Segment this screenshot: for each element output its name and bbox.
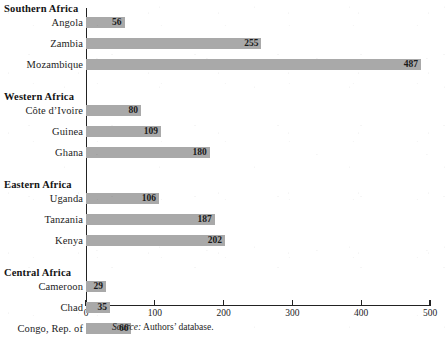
x-axis-tick-label: 300 <box>285 308 299 318</box>
x-axis-tick-label: 100 <box>148 308 162 318</box>
bar-value-label: 29 <box>86 281 106 292</box>
bar-value-label: 56 <box>86 17 125 28</box>
bar-chart: 0100200300400500Southern AfricaAngola56Z… <box>0 0 445 338</box>
x-axis-tick-label: 200 <box>216 308 230 318</box>
category-label: Chad <box>60 302 83 313</box>
category-label: Kenya <box>55 235 83 246</box>
x-axis-tick <box>223 300 224 306</box>
bar-value-label: 180 <box>86 147 210 158</box>
bar-value-label: 109 <box>86 126 161 137</box>
category-label: Guinea <box>52 126 83 137</box>
source-text: Authors’ database. <box>143 322 214 332</box>
x-axis-tick <box>154 300 155 306</box>
category-label: Congo, Rep. of <box>17 323 83 334</box>
category-label: Zambia <box>50 38 83 49</box>
category-label: Ghana <box>55 147 83 158</box>
x-axis-tick-label: 500 <box>423 308 437 318</box>
category-label: Cameroon <box>38 281 83 292</box>
x-axis-tick <box>361 300 362 306</box>
group-header: Central Africa <box>4 267 71 278</box>
bar-value-label: 202 <box>86 235 225 246</box>
source-note: Source: Authors’ database. <box>112 322 214 332</box>
category-label: Tanzania <box>44 214 83 225</box>
group-header: Southern Africa <box>4 3 78 14</box>
bar-value-label: 106 <box>86 193 159 204</box>
x-axis-tick <box>429 300 430 306</box>
category-label: Côte d’Ivoire <box>25 105 83 116</box>
x-axis-tick-label: 400 <box>354 308 368 318</box>
category-label: Uganda <box>50 193 83 204</box>
x-axis-line <box>86 305 430 306</box>
group-header: Eastern Africa <box>4 179 72 190</box>
group-header: Western Africa <box>4 91 74 102</box>
bar-value-label: 80 <box>86 105 141 116</box>
x-axis-tick <box>292 300 293 306</box>
category-label: Angola <box>51 17 83 28</box>
bar-value-label: 255 <box>86 38 261 49</box>
bar-value-label: 187 <box>86 214 215 225</box>
source-label: Source: <box>112 322 141 332</box>
category-label: Mozambique <box>27 59 83 70</box>
bar-value-label: 487 <box>86 59 421 70</box>
bar-value-label: 35 <box>86 302 110 313</box>
